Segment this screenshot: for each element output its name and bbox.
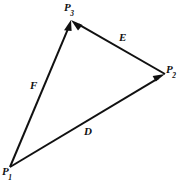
point-label-p3: P3 — [64, 2, 74, 16]
vector-label-d: D — [84, 126, 92, 137]
vector-label-f: F — [30, 80, 37, 91]
vector-f-arrowhead — [64, 20, 72, 31]
point-label-p2: P2 — [166, 64, 176, 78]
point-label-p1-subscript: 1 — [8, 173, 12, 182]
vector-f-line — [10, 29, 68, 167]
point-label-p2-subscript: 2 — [172, 71, 176, 80]
vector-d-line — [10, 78, 159, 167]
vector-e-arrowhead — [71, 20, 83, 31]
vector-e — [71, 20, 165, 74]
vector-f — [10, 20, 72, 167]
point-label-p3-subscript: 3 — [70, 9, 74, 18]
vector-diagram-figure: P1 P2 P3 D E F — [0, 0, 180, 183]
point-label-p1: P1 — [2, 166, 12, 180]
vector-diagram-canvas — [0, 0, 180, 183]
vector-label-e: E — [119, 32, 126, 43]
